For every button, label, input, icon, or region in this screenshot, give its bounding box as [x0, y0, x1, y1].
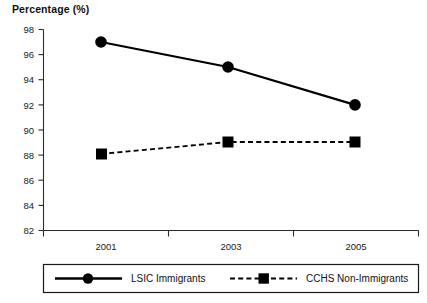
- y-axis-ticks: [39, 30, 44, 231]
- y-tick-label: 92: [23, 100, 34, 111]
- legend-label-lsic-immigrants: LSIC Immigrants: [131, 273, 205, 284]
- data-point-marker-cchs-2001: [96, 149, 107, 160]
- legend-square-marker: [259, 273, 269, 283]
- chart-legend: LSIC Immigrants CCHS Non-Immigrants: [44, 265, 419, 293]
- data-point-marker-lsic-2001: [95, 36, 107, 48]
- x-tick-label: 2003: [220, 241, 241, 252]
- data-point-marker-cchs-2003: [223, 137, 234, 148]
- y-tick-label: 82: [23, 225, 34, 236]
- line-chart-plot: 98 96 94 92 90 88 86 84 82 2001 2003 200…: [0, 0, 427, 303]
- series-line-lsic-immigrants: [101, 42, 355, 105]
- legend-label-cchs-non-immigrants: CCHS Non-Immigrants: [306, 273, 408, 284]
- data-point-marker-lsic-2005: [349, 99, 361, 111]
- y-tick-label: 90: [23, 125, 34, 136]
- x-tick-label: 2005: [345, 241, 366, 252]
- y-tick-label: 86: [23, 175, 34, 186]
- y-tick-label: 84: [23, 200, 34, 211]
- data-point-marker-cchs-2005: [350, 137, 361, 148]
- y-tick-label: 88: [23, 150, 34, 161]
- y-tick-label: 98: [23, 24, 34, 35]
- y-tick-label: 96: [23, 49, 34, 60]
- chart-figure: Percentage (%) 98 96 94 92 90 88 86 84 8…: [0, 0, 427, 303]
- x-axis-ticks: [44, 231, 419, 237]
- data-point-marker-lsic-2003: [222, 61, 234, 73]
- y-tick-label: 94: [23, 74, 34, 85]
- legend-circle-marker: [83, 273, 93, 283]
- x-tick-label: 2001: [95, 241, 116, 252]
